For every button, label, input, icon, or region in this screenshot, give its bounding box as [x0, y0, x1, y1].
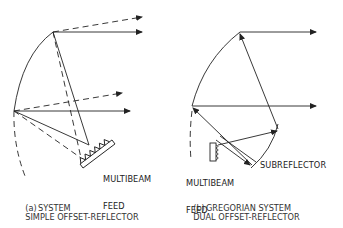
parabola-extension-a — [14, 111, 25, 176]
ray-feed-to-sub-top — [218, 131, 277, 145]
caption-b-prefix: (b) — [193, 203, 205, 213]
parabola-extension-b — [190, 111, 192, 160]
caption-a-line2: SYSTEM — [38, 204, 71, 214]
ray-top-dashed-a — [53, 17, 142, 32]
feed-ray-bottom-dashed-a — [14, 111, 81, 158]
ray-mid-dashed-a — [14, 93, 122, 111]
panel-b-dual-offset-gregorian — [190, 32, 316, 168]
feed-label-a-line1: MULTIBEAM — [103, 175, 151, 184]
panel-a-simple-offset-reflector — [14, 17, 142, 176]
ray-sub-to-main-mid — [193, 108, 252, 165]
caption-a-line1: SIMPLE OFFSET-REFLECTOR — [25, 212, 138, 222]
caption-a-prefix: (a) — [25, 203, 36, 213]
caption-b-line1: DUAL OFFSET-REFLECTOR — [193, 212, 300, 222]
main-reflector-b — [192, 32, 240, 106]
main-reflector-a — [14, 32, 53, 111]
feed-ray-bottom-solid-a — [14, 111, 89, 145]
multibeam-feed-b — [210, 143, 218, 161]
ray-sub-to-main-top — [240, 34, 278, 129]
feed-ray-top-solid-a — [53, 32, 89, 145]
feed-label-b-line1: MULTIBEAM — [186, 179, 234, 188]
caption-b-line2: GREGORIAN SYSTEM — [206, 204, 291, 214]
subreflector-label: SUBREFLECTOR — [260, 161, 326, 170]
